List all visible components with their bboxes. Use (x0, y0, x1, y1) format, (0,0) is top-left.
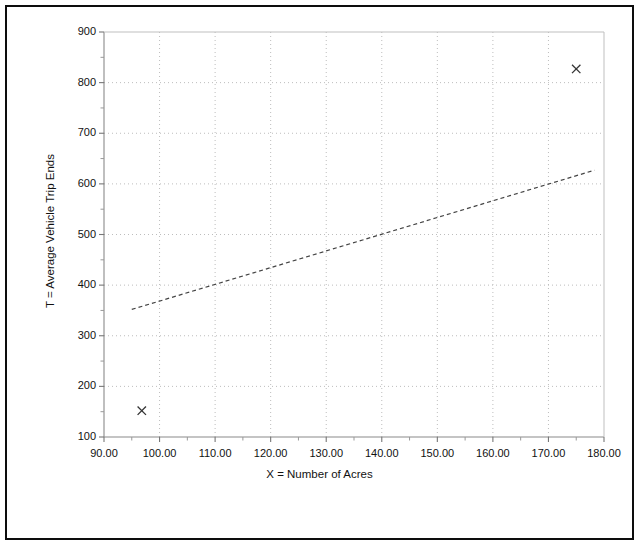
plot-area: 100200300400500600700800900 90.00100.001… (0, 0, 639, 545)
x-tick-label: 110.00 (185, 447, 245, 459)
axis-ticks (99, 32, 604, 442)
y-tick-label: 300 (52, 329, 96, 341)
data-point-marker (138, 406, 146, 414)
data-point-marker (572, 65, 580, 73)
x-axis-title: X = Number of Acres (0, 468, 639, 480)
y-axis-title: T = Average Vehicle Trip Ends (44, 111, 56, 351)
x-tick-label: 130.00 (296, 447, 356, 459)
x-tick-label: 180.00 (574, 447, 634, 459)
gridlines (104, 32, 604, 437)
legend: ✕ Actual Data Points Average Rate (0, 486, 639, 508)
x-tick-label: 150.00 (407, 447, 467, 459)
y-tick-label: 800 (52, 76, 96, 88)
y-tick-label: 500 (52, 228, 96, 240)
y-tick-label: 600 (52, 177, 96, 189)
x-tick-label: 140.00 (352, 447, 412, 459)
footer: Fitted Curve Equation: Not given R2 = **… (0, 513, 639, 539)
x-tick-label: 170.00 (518, 447, 578, 459)
chart-figure: 100200300400500600700800900 90.00100.001… (0, 0, 639, 545)
y-tick-label: 700 (52, 126, 96, 138)
data-series (132, 65, 595, 415)
y-tick-label: 400 (52, 278, 96, 290)
y-tick-label: 200 (52, 379, 96, 391)
x-tick-label: 160.00 (463, 447, 523, 459)
x-tick-label: 100.00 (130, 447, 190, 459)
y-tick-label: 100 (52, 430, 96, 442)
x-tick-label: 90.00 (74, 447, 134, 459)
y-tick-label: 900 (52, 25, 96, 37)
x-tick-label: 120.00 (241, 447, 301, 459)
